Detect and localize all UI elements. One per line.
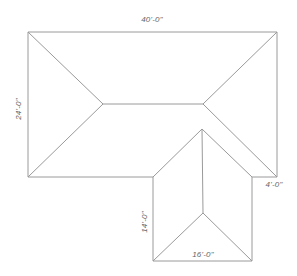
hip-top-right bbox=[203, 32, 277, 104]
dimension-top-width: 40'-0" bbox=[141, 15, 164, 24]
hip-bottom-left bbox=[28, 104, 103, 177]
hip-top-left bbox=[28, 32, 103, 104]
dimension-step-offset: 4'-0" bbox=[266, 180, 284, 189]
dimension-left-height: 24'-0" bbox=[14, 97, 23, 121]
wing-valley-left bbox=[153, 129, 202, 177]
dimension-wing-depth: 14'-0" bbox=[140, 210, 149, 233]
wing-ridge-line bbox=[202, 129, 203, 213]
dimension-wing-width: 16'-0" bbox=[192, 250, 215, 259]
roof-plan-diagram: 40'-0" 24'-0" 4'-0" 14'-0" 16'-0" bbox=[0, 0, 297, 276]
wing-valley-right bbox=[202, 129, 252, 177]
